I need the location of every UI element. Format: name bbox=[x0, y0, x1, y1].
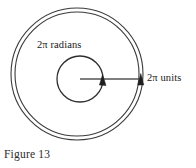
arrowhead-inner-icon bbox=[99, 75, 106, 86]
label-outer-circumference: 2π radians bbox=[37, 39, 82, 51]
outer-circle-inner-line bbox=[15, 12, 139, 136]
circle-diagram bbox=[0, 0, 196, 168]
outer-circle-outer-line bbox=[11, 8, 143, 140]
figure-caption: Figure 13 bbox=[4, 148, 50, 160]
figure-container: 2π radians 2π units Figure 13 bbox=[0, 0, 196, 168]
label-radius-length: 2π units bbox=[147, 72, 181, 84]
